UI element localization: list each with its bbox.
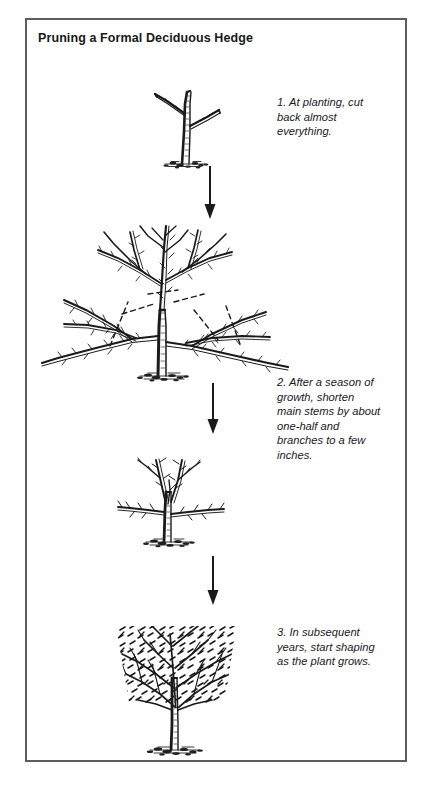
arrow-2: [203, 383, 223, 435]
stage-3-plant: [108, 438, 238, 548]
step-3-caption: 3. In subsequent years, start shaping as…: [277, 625, 401, 669]
arrow-3: [203, 556, 223, 608]
stage-1-plant: [135, 80, 245, 170]
step-2-caption: 2. After a season of growth, shorten mai…: [277, 375, 401, 463]
step-1-caption: 1. At planting, cut back almost everythi…: [277, 95, 401, 139]
stage-4-plant: [100, 612, 252, 762]
page-title: Pruning a Formal Deciduous Hedge: [38, 31, 253, 45]
pruning-figure: Pruning a Formal Deciduous Hedge: [0, 0, 434, 810]
stage-2-plant: [36, 218, 298, 383]
arrow-1: [200, 166, 220, 220]
